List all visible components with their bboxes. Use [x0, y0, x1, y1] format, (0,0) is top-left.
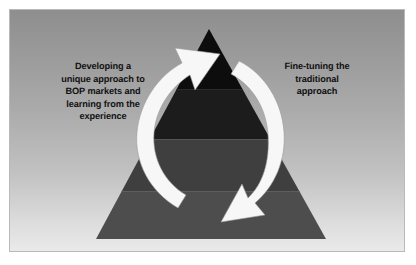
fine-tuning-label-line-1: Fine-tuning the — [262, 60, 372, 73]
pyramid-band-lower-middle-tier — [70, 139, 370, 191]
developing-approach-label-line-2: unique approach to — [42, 73, 164, 86]
developing-approach-label-line-3: BOP markets and — [42, 85, 164, 98]
developing-approach-label-line-4: learning from the — [42, 98, 164, 111]
diagram-stage: Developing a unique approach to BOP mark… — [10, 10, 405, 252]
fine-tuning-label-line-3: approach — [262, 85, 372, 98]
developing-approach-label: Developing a unique approach to BOP mark… — [42, 60, 164, 123]
figure-panel: Developing a unique approach to BOP mark… — [9, 9, 405, 252]
pyramid-diagram — [10, 10, 405, 252]
developing-approach-label-line-5: experience — [42, 110, 164, 123]
figure-root: Developing a unique approach to BOP mark… — [0, 0, 416, 265]
fine-tuning-label: Fine-tuning the traditional approach — [262, 60, 372, 98]
pyramid-band-base-tier — [70, 191, 370, 239]
fine-tuning-label-line-2: traditional — [262, 73, 372, 86]
developing-approach-label-line-1: Developing a — [42, 60, 164, 73]
